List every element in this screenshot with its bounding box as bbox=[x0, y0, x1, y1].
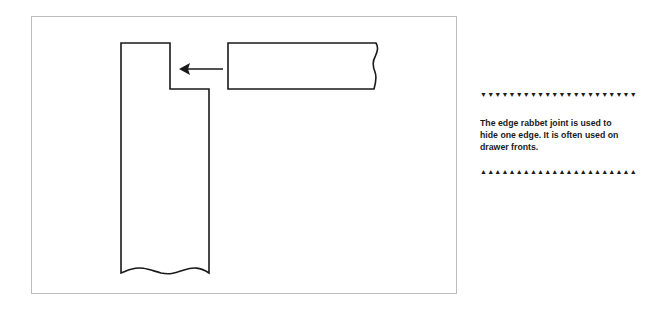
top-ornament: ▼▼▼▼▼▼▼▼▼▼▼▼▼▼▼▼▼▼▼▼▼▼ bbox=[480, 90, 659, 99]
caption-text: The edge rabbet joint is used to hide on… bbox=[480, 117, 624, 153]
caption-panel: ▼▼▼▼▼▼▼▼▼▼▼▼▼▼▼▼▼▼▼▼▼▼ The edge rabbet j… bbox=[480, 90, 659, 176]
horizontal-board bbox=[228, 43, 378, 89]
vertical-board bbox=[121, 43, 209, 274]
bottom-ornament: ▲▲▲▲▲▲▲▲▲▲▲▲▲▲▲▲▲▲▲▲▲▲ bbox=[480, 167, 659, 176]
